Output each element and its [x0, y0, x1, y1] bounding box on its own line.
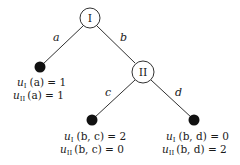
- edge-d: [151, 80, 192, 118]
- edge-a: [42, 26, 83, 65]
- payoff-a-player-II: uII(a) = 1: [13, 89, 64, 103]
- svg-text:II: II: [139, 66, 148, 79]
- terminal-node-a: [35, 62, 46, 73]
- payoff-bc-player-II: uII(b, c) = 0: [60, 143, 124, 157]
- edge-label-a: a: [53, 31, 60, 44]
- payoff-bd-player-II: uII(b, d) = 2: [162, 143, 227, 157]
- payoff-bc-player-I: uI(b, c) = 2: [64, 130, 126, 144]
- edge-c: [94, 80, 135, 118]
- terminal-node-bc: [87, 115, 98, 126]
- decision-node-I: I: [80, 8, 100, 28]
- payoff-bd-player-I: uI(b, d) = 0: [166, 130, 229, 144]
- edge-label-d: d: [175, 86, 182, 99]
- game-tree: a b c d I II uI(a) = 1 uII(a) = 1 uI(b, …: [0, 0, 240, 165]
- terminal-node-bd: [189, 115, 200, 126]
- edge-label-b: b: [120, 31, 127, 44]
- svg-text:I: I: [88, 12, 92, 25]
- edge-label-c: c: [105, 86, 111, 99]
- edge-b: [97, 26, 135, 63]
- payoff-a-player-I: uI(a) = 1: [17, 76, 66, 90]
- decision-node-II: II: [132, 61, 154, 83]
